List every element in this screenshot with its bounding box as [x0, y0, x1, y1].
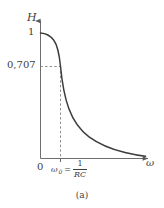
- response-curve: [41, 33, 146, 156]
- cutoff-equals-sign: =: [64, 166, 71, 174]
- cutoff-fraction-numerator: 1: [77, 160, 84, 168]
- x-axis-label: ω: [146, 158, 154, 168]
- x-tick-label-zero: 0: [37, 162, 43, 172]
- cutoff-omega-symbol: ω: [51, 166, 58, 174]
- cutoff-frequency-annotation: ω0 = 1 RC: [51, 160, 87, 179]
- y-axis-label: H: [27, 12, 37, 23]
- figure-caption: (a): [0, 190, 164, 200]
- figure-lowpass-response: H ω 1 0,707 0 ω0 = 1 RC (a): [0, 0, 164, 208]
- cutoff-fraction: 1 RC: [73, 160, 87, 179]
- cutoff-fraction-denominator: RC: [73, 171, 87, 179]
- cutoff-omega-subscript: 0: [59, 169, 63, 175]
- y-tick-label-half-power: 0,707: [7, 60, 36, 70]
- y-tick-label-one: 1: [28, 27, 34, 37]
